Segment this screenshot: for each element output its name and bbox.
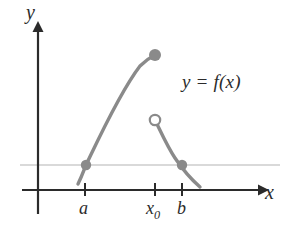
x-tick-label-b: b [177,199,186,217]
curve-branch-right [155,120,200,187]
function-equation-label: y = f(x) [182,72,241,91]
function-graph-figure: y x y = f(x) a x0 b [0,0,282,231]
x-axis-label: x [265,182,274,202]
x-tick-label-x0-base: x [146,198,154,218]
point-open-right-limit-at-x0 [150,115,160,125]
y-axis-label: y [26,2,35,22]
x-tick-label-x0-subscript: 0 [154,208,160,222]
x-tick-label-a: a [79,199,88,217]
point-left-limit-at-x0 [149,49,161,61]
plot-canvas [0,0,282,231]
x-tick-label-x0: x0 [146,199,160,221]
point-value-at-a [81,160,91,170]
point-value-at-b [177,160,187,170]
